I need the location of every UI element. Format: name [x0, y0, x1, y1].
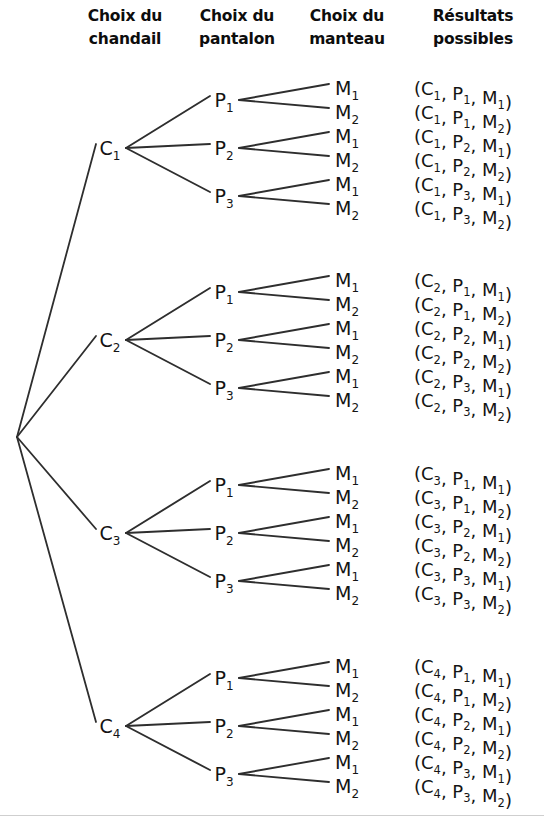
branch-p1-to-m1-c3: [239, 469, 329, 485]
branch-c4-to-p3: [126, 726, 210, 770]
node-c1-p2-m1: M1: [335, 125, 359, 151]
node-c2-p2: P2: [214, 329, 233, 355]
outcome-labels: (C1, P1, M1)(C1, P1, M2)(C1, P2, M1)(C1,…: [414, 78, 512, 811]
node-c4-p2-m2: M2: [335, 727, 359, 753]
branch-p2-to-m2-c2: [239, 340, 329, 348]
node-c1-p3: P3: [214, 185, 233, 211]
node-c1-p1-m2: M2: [335, 101, 359, 127]
branch-p2-to-m2-c4: [239, 726, 329, 734]
node-c1-p3-m2: M2: [335, 197, 359, 223]
node-c2-p2-m2: M2: [335, 341, 359, 367]
node-c3-p1: P1: [214, 474, 233, 500]
branch-root-to-c1: [17, 144, 96, 437]
node-c4-p3: P3: [214, 763, 233, 789]
node-c3-p2-m1: M1: [335, 510, 359, 536]
branch-c1-to-p1: [126, 96, 210, 148]
branch-c1-to-p3: [126, 148, 210, 192]
node-c2-p1-m1: M1: [335, 269, 359, 295]
branch-p3-to-m2-c4: [239, 774, 329, 782]
branch-p1-to-m2-c4: [239, 678, 329, 686]
branch-c2-to-p2: [126, 336, 210, 340]
node-c1-p1-m1: M1: [335, 77, 359, 103]
node-c4: C4: [100, 715, 121, 741]
node-c1-p2-m2: M2: [335, 149, 359, 175]
branch-p2-to-m1-c2: [239, 324, 329, 340]
branch-lines: [17, 84, 329, 782]
node-c2-p3-m1: M1: [335, 365, 359, 391]
node-c1: C1: [100, 137, 121, 163]
node-c4-p3-m1: M1: [335, 751, 359, 777]
branch-p3-to-m1-c2: [239, 372, 329, 388]
node-c2-p1: P1: [214, 281, 233, 307]
branch-p1-to-m1-c2: [239, 276, 329, 292]
node-c4-p1-m2: M2: [335, 679, 359, 705]
column-header-resultats-line1: Résultats: [433, 7, 514, 25]
branch-p3-to-m2-c3: [239, 581, 329, 589]
node-c3-p1-m1: M1: [335, 462, 359, 488]
node-c3: C3: [100, 522, 121, 548]
branch-p1-to-m1-c1: [239, 84, 329, 100]
column-header-chandail-line1: Choix du: [88, 7, 162, 25]
node-c2: C2: [100, 329, 121, 355]
node-c2-p2-m1: M1: [335, 317, 359, 343]
node-c1-p2: P2: [214, 137, 233, 163]
column-header-pantalon-line2: pantalon: [199, 30, 275, 48]
node-c3-p3-m1: M1: [335, 558, 359, 584]
node-c2-p3-m2: M2: [335, 389, 359, 415]
level2-nodes: P1P2P3P1P2P3P1P2P3P1P2P3: [214, 89, 233, 789]
probability-tree-svg: Choix duchandailChoix dupantalonChoix du…: [0, 0, 544, 825]
column-header-resultats-line2: possibles: [433, 30, 513, 48]
tree-diagram-canvas: Choix duchandailChoix dupantalonChoix du…: [0, 0, 544, 825]
branch-p3-to-m2-c2: [239, 388, 329, 396]
node-c4-p2: P2: [214, 715, 233, 741]
node-c3-p1-m2: M2: [335, 486, 359, 512]
branch-c2-to-p3: [126, 340, 210, 384]
node-c3-p3-m2: M2: [335, 582, 359, 608]
node-c2-p1-m2: M2: [335, 293, 359, 319]
node-c1-p3-m1: M1: [335, 173, 359, 199]
footer-divider: [0, 815, 544, 825]
branch-p1-to-m1-c4: [239, 662, 329, 678]
branch-p2-to-m2-c1: [239, 148, 329, 156]
branch-p2-to-m1-c3: [239, 517, 329, 533]
node-c3-p2: P2: [214, 522, 233, 548]
node-c4-p1: P1: [214, 667, 233, 693]
branch-p3-to-m1-c3: [239, 565, 329, 581]
branch-c3-to-p3: [126, 533, 210, 577]
column-headers: Choix duchandailChoix dupantalonChoix du…: [88, 7, 514, 48]
node-c4-p3-m2: M2: [335, 775, 359, 801]
branch-c2-to-p1: [126, 288, 210, 340]
node-c4-p2-m1: M1: [335, 703, 359, 729]
branch-p1-to-m2-c2: [239, 292, 329, 300]
branch-p1-to-m2-c3: [239, 485, 329, 493]
branch-root-to-c2: [17, 336, 96, 437]
branch-p3-to-m2-c1: [239, 196, 329, 204]
branch-c4-to-p1: [126, 674, 210, 726]
node-c2-p3: P3: [214, 377, 233, 403]
branch-p3-to-m1-c4: [239, 758, 329, 774]
node-c3-p2-m2: M2: [335, 534, 359, 560]
branch-p1-to-m2-c1: [239, 100, 329, 108]
branch-root-to-c4: [17, 437, 96, 722]
column-header-chandail-line2: chandail: [89, 30, 161, 48]
branch-p2-to-m2-c3: [239, 533, 329, 541]
branch-c3-to-p1: [126, 481, 210, 533]
branch-p2-to-m1-c4: [239, 710, 329, 726]
node-c3-p3: P3: [214, 570, 233, 596]
branch-c4-to-p2: [126, 722, 210, 726]
node-c4-p1-m1: M1: [335, 655, 359, 681]
column-header-pantalon-line1: Choix du: [200, 7, 274, 25]
branch-p2-to-m1-c1: [239, 132, 329, 148]
column-header-manteau-line2: manteau: [309, 30, 385, 48]
level1-nodes: C1C2C3C4: [100, 137, 121, 741]
branch-c1-to-p2: [126, 144, 210, 148]
branch-p3-to-m1-c1: [239, 180, 329, 196]
column-header-manteau-line1: Choix du: [310, 7, 384, 25]
node-c1-p1: P1: [214, 89, 233, 115]
level3-nodes: M1M2M1M2M1M2M1M2M1M2M1M2M1M2M1M2M1M2M1M2…: [335, 77, 359, 801]
branch-c3-to-p2: [126, 529, 210, 533]
